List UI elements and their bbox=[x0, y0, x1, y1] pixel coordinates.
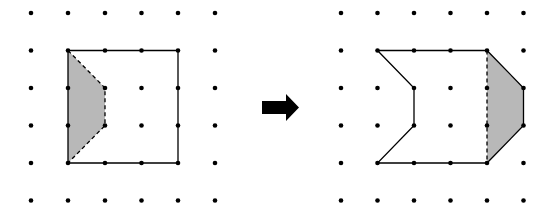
left-shaded-piece bbox=[68, 51, 105, 164]
diagram-canvas bbox=[0, 0, 555, 205]
left-dot-grid bbox=[29, 11, 218, 203]
right-shaded-piece bbox=[487, 51, 524, 164]
right-arrow-icon bbox=[262, 94, 299, 121]
